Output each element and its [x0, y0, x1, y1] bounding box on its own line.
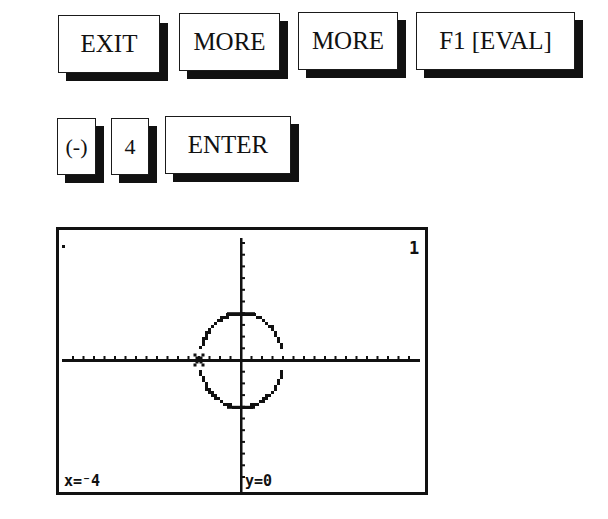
x-tick — [377, 356, 379, 360]
corner-dot — [62, 245, 65, 248]
x-tick — [272, 356, 274, 360]
x-tick — [177, 356, 179, 360]
enter-key-label: ENTER — [188, 131, 269, 159]
curve-pixel — [223, 403, 226, 406]
curve-pixel — [205, 334, 208, 337]
x-tick — [356, 356, 358, 360]
curve-pixel — [277, 379, 280, 382]
x-tick — [251, 356, 253, 360]
x-tick — [188, 356, 190, 360]
x-tick — [83, 356, 85, 360]
x-tick — [408, 356, 410, 360]
y-tick — [242, 289, 245, 291]
x-tick — [114, 356, 116, 360]
curve-pixel — [274, 331, 277, 334]
x-tick — [125, 356, 127, 360]
curve-pixel — [202, 343, 205, 346]
curve-pixel — [226, 403, 229, 406]
curve-pixel — [280, 376, 283, 379]
y-tick — [242, 464, 245, 466]
more-key-1-label: MORE — [193, 28, 265, 56]
x-tick — [219, 356, 221, 360]
curve-pixel — [211, 394, 214, 397]
x-tick — [230, 356, 232, 360]
y-tick — [242, 254, 245, 256]
x-tick — [167, 356, 169, 360]
curve-pixel — [277, 340, 280, 343]
negative-key-label: (-) — [66, 134, 88, 160]
curve-pixel — [274, 388, 277, 391]
f1-eval-key-label: F1 [EVAL] — [439, 27, 552, 55]
x-tick — [156, 356, 158, 360]
curve-pixel — [202, 340, 205, 343]
curve-pixel — [253, 403, 256, 406]
curve-pixel — [256, 403, 259, 406]
curve-pixel — [217, 397, 220, 400]
curve-pixel — [229, 403, 232, 406]
y-tick — [242, 347, 245, 349]
x-tick — [135, 356, 137, 360]
curve-pixel — [214, 394, 217, 397]
curve-pixel — [271, 328, 274, 331]
curve-pixel — [256, 316, 259, 319]
curve-pixel — [262, 400, 265, 403]
busy-indicator: 1 — [409, 240, 419, 257]
curve-pixel — [280, 343, 283, 346]
more-key-2-label: MORE — [312, 27, 384, 55]
more-key-1[interactable]: MORE — [179, 13, 280, 71]
graph-plot — [59, 230, 425, 492]
curve-pixel — [259, 316, 262, 319]
x-tick — [261, 356, 263, 360]
curve-pixel — [262, 319, 265, 322]
curve-pixel — [202, 337, 205, 340]
exit-key[interactable]: EXIT — [58, 15, 160, 73]
curve-pixel — [199, 346, 202, 349]
x-tick — [72, 356, 74, 360]
x-tick — [335, 356, 337, 360]
curve-pixel — [268, 394, 271, 397]
curve-pixel — [208, 331, 211, 334]
curve-pixel — [208, 388, 211, 391]
curve-pixel — [211, 325, 214, 328]
y-tick — [242, 429, 245, 431]
curve-pixel — [205, 337, 208, 340]
curve-pixel — [220, 316, 223, 319]
f1-eval-key[interactable]: F1 [EVAL] — [416, 12, 575, 70]
x-tick — [324, 356, 326, 360]
y-tick — [242, 265, 245, 267]
x-tick — [398, 356, 400, 360]
curve-pixel — [280, 370, 283, 373]
four-key[interactable]: 4 — [111, 118, 149, 175]
curve-pixel — [211, 391, 214, 394]
curve-pixel — [220, 319, 223, 322]
curve-pixel — [223, 316, 226, 319]
y-tick — [242, 441, 245, 443]
y-tick — [242, 324, 245, 326]
curve-pixel — [262, 397, 265, 400]
x-tick — [314, 356, 316, 360]
curve-pixel — [202, 376, 205, 379]
x-tick — [104, 356, 106, 360]
y-tick — [242, 301, 245, 303]
x-tick — [387, 356, 389, 360]
curve-pixel — [280, 346, 283, 349]
curve-pixel — [214, 397, 217, 400]
curve-pixel — [271, 391, 274, 394]
y-tick — [242, 242, 245, 244]
curve-pixel — [277, 337, 280, 340]
enter-key[interactable]: ENTER — [165, 116, 291, 174]
x-tick — [366, 356, 368, 360]
curve-pixel — [259, 400, 262, 403]
curve-pixel — [268, 325, 271, 328]
curve-pixel — [265, 322, 268, 325]
calculator-graph-screen: 1 x=⁻4 y=0 — [56, 227, 428, 495]
curve-pixel — [250, 403, 253, 406]
curve-pixel — [202, 379, 205, 382]
curve-pixel — [208, 328, 211, 331]
curve-pixel — [205, 331, 208, 334]
negative-key[interactable]: (-) — [57, 118, 96, 175]
x-tick — [146, 356, 148, 360]
more-key-2[interactable]: MORE — [298, 12, 398, 70]
curve-pixel — [271, 325, 274, 328]
curve-pixel — [265, 394, 268, 397]
